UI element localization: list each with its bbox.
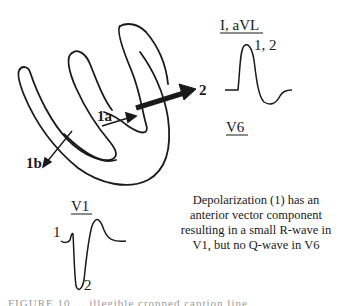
- lead-v1-s-label: 2: [84, 277, 92, 293]
- lead-v1-waveform: [61, 220, 126, 290]
- vector-1b-label: 1b: [26, 155, 42, 171]
- explanation-caption: Depolarization (1) has an anterior vecto…: [172, 193, 340, 253]
- diagram-canvas: 1b 1a 2 I, aVL 1, 2 V6 V1 1 2: [0, 0, 340, 306]
- cropped-figure-caption: FIGURE 10 ... illegible cropped caption …: [8, 297, 338, 306]
- lead-i-avl-title: I, aVL: [220, 17, 259, 33]
- lead-i-avl-waveform: [225, 45, 292, 104]
- vector-1a-label: 1a: [97, 108, 113, 124]
- lead-v6-title: V6: [226, 119, 245, 135]
- lead-v1-r-label: 1: [53, 224, 61, 240]
- lead-v1-title: V1: [71, 198, 89, 214]
- lead-i-avl-wave-label: 1, 2: [254, 37, 277, 53]
- vector-2-label: 2: [199, 82, 207, 98]
